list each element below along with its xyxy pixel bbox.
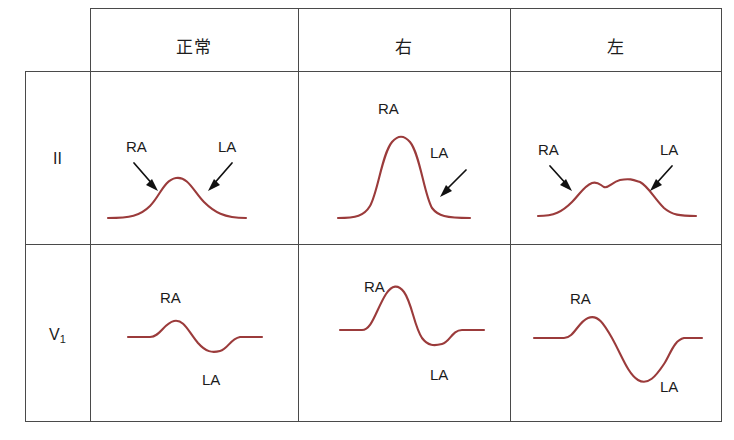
p-wave-morphology-figure: 正常 右 左 II V1 RA LA xyxy=(0,0,734,440)
annotation-ra-label: RA xyxy=(364,278,385,295)
column-header-normal: 正常 xyxy=(90,28,298,68)
annotation-la-label: LA xyxy=(430,144,448,161)
annotation-ra-label: RA xyxy=(160,289,181,306)
p-wave-trace xyxy=(128,321,262,352)
row-header-lead-v1-label: V xyxy=(49,326,60,343)
annotation-ra-label: RA xyxy=(378,100,399,117)
cell-leadv1-right: RA LA xyxy=(320,258,520,398)
cell-leadv1-normal: RA LA xyxy=(110,285,310,395)
annotation-la-label: LA xyxy=(218,138,236,155)
p-wave-trace xyxy=(338,137,470,218)
annotation-ra-label: RA xyxy=(570,290,591,307)
cell-lead2-left: RA LA xyxy=(520,130,720,230)
p-wave-trace xyxy=(534,317,702,382)
waveform-leadv1-right: RA LA xyxy=(320,258,520,398)
annotation-la-label: LA xyxy=(660,141,678,158)
p-wave-trace xyxy=(340,287,484,346)
annotation-ra-arrow xyxy=(134,163,158,191)
table-row-divider xyxy=(25,244,722,245)
column-header-left-label: 左 xyxy=(607,38,625,57)
table-header-divider xyxy=(25,71,722,72)
annotation-ra-label: RA xyxy=(538,141,559,158)
annotation-la-label: LA xyxy=(202,371,220,388)
table-border-right xyxy=(721,8,722,421)
row-header-lead-v1: V1 xyxy=(25,326,90,344)
row-header-lead-2-label: II xyxy=(53,150,62,167)
annotation-ra-label: RA xyxy=(126,138,147,155)
waveform-leadv1-left: RA LA xyxy=(520,280,720,400)
annotation-la-label: LA xyxy=(660,378,678,395)
annotation-la-arrow xyxy=(208,163,232,191)
waveform-lead2-right: RA LA xyxy=(330,92,530,232)
table-border-bottom xyxy=(25,421,722,422)
annotation-ra-arrow xyxy=(550,166,572,191)
waveform-lead2-normal: RA LA xyxy=(98,130,298,230)
column-header-right: 右 xyxy=(298,28,510,68)
p-wave-trace xyxy=(108,178,246,218)
cell-leadv1-left: RA LA xyxy=(520,280,720,400)
row-header-lead-2: II xyxy=(25,150,90,168)
cell-lead2-normal: RA LA xyxy=(98,130,298,230)
annotation-la-label: LA xyxy=(430,366,448,383)
table-rowheader-divider xyxy=(90,8,91,421)
row-header-lead-v1-subscript: 1 xyxy=(60,333,66,345)
cell-lead2-right: RA LA xyxy=(330,92,530,232)
annotation-la-arrow xyxy=(650,166,672,191)
column-header-left: 左 xyxy=(510,28,721,68)
table-border-top xyxy=(90,8,722,9)
waveform-leadv1-normal: RA LA xyxy=(110,285,310,395)
column-header-normal-label: 正常 xyxy=(176,38,212,57)
annotation-la-arrow xyxy=(440,170,466,197)
column-header-right-label: 右 xyxy=(395,38,413,57)
table-border-left xyxy=(25,71,26,421)
waveform-lead2-left: RA LA xyxy=(520,130,720,230)
